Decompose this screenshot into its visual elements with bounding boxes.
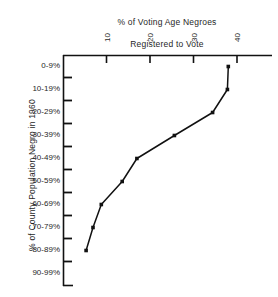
data-point bbox=[211, 111, 215, 115]
data-point bbox=[227, 65, 231, 69]
data-point bbox=[91, 226, 95, 230]
axis-lines bbox=[63, 55, 272, 286]
data-point bbox=[173, 134, 177, 138]
data-point bbox=[84, 249, 88, 253]
data-point-markers bbox=[84, 65, 230, 253]
data-series-line bbox=[86, 67, 228, 251]
plot-area bbox=[0, 0, 278, 297]
data-point bbox=[226, 88, 230, 92]
data-point bbox=[120, 180, 124, 184]
y-axis-ticks bbox=[63, 78, 72, 262]
chart-container: % of Voting Age Negroes Registered to Vo… bbox=[0, 0, 278, 297]
data-point bbox=[135, 157, 139, 161]
data-point bbox=[100, 203, 104, 207]
